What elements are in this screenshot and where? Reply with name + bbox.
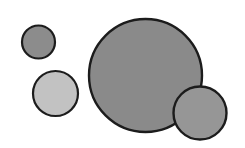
circles-diagram: [0, 0, 245, 148]
diagram-canvas: [0, 0, 245, 148]
circle-light-left: [33, 71, 78, 116]
circle-small-top-left: [22, 26, 55, 59]
circle-medium-right: [174, 87, 227, 140]
